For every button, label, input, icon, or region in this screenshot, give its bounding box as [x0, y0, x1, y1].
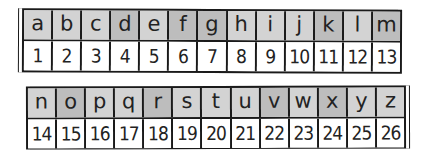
letter-cell: x	[319, 88, 348, 117]
number-cell: 4	[111, 42, 140, 71]
letter-cell: z	[377, 88, 404, 117]
letter-cell: y	[348, 88, 377, 117]
number-cell: 11	[315, 42, 344, 71]
number-cell: 5	[140, 42, 169, 71]
letter-cell: c	[82, 11, 111, 40]
number-cell: 16	[86, 119, 115, 148]
letter-cell: o	[57, 88, 86, 117]
number-cell: 18	[144, 119, 173, 148]
letter-cell: q	[115, 88, 144, 117]
letter-cell: j	[286, 11, 315, 40]
number-cell: 6	[169, 42, 198, 71]
letter-cell: d	[111, 11, 140, 40]
letter-cell: v	[261, 88, 290, 117]
numbers-row: 1 2 3 4 5 6 7 8 9 10 11 12 13	[24, 41, 400, 71]
letters-row: a b c d e f g h i j k l m	[24, 10, 400, 42]
letter-cell: n	[28, 88, 57, 117]
alphabet-strip-a-to-m: a b c d e f g h i j k l m 1 2 3 4 5 6 7 …	[22, 8, 402, 73]
letter-cell: f	[169, 11, 198, 40]
letters-row: n o p q r s t u v w x y z	[28, 88, 404, 120]
letter-cell: i	[257, 11, 286, 40]
number-cell: 19	[173, 119, 202, 148]
number-cell: 1	[24, 41, 53, 70]
number-cell: 3	[82, 42, 111, 71]
number-cell: 12	[344, 42, 373, 71]
letter-cell: g	[198, 11, 227, 40]
number-cell: 7	[198, 42, 227, 71]
letter-cell: h	[228, 11, 257, 40]
number-cell: 10	[286, 42, 315, 71]
number-cell: 8	[227, 42, 256, 71]
letter-cell: w	[290, 88, 319, 117]
letter-cell: m	[373, 12, 400, 41]
letter-cell: t	[202, 88, 231, 117]
number-cell: 2	[53, 41, 82, 70]
letter-cell: p	[86, 88, 115, 117]
number-cell: 25	[348, 119, 377, 148]
letter-cell: l	[344, 11, 373, 40]
number-cell: 23	[290, 119, 319, 148]
numbers-row: 14 15 16 17 18 19 20 21 22 23 24 25 26	[28, 119, 404, 149]
number-cell: 17	[115, 119, 144, 148]
number-cell: 26	[377, 119, 404, 148]
number-cell: 14	[28, 119, 57, 148]
number-cell: 20	[202, 119, 231, 148]
letter-cell: u	[231, 88, 260, 117]
letter-cell: k	[315, 11, 344, 40]
number-cell: 9	[257, 42, 286, 71]
number-cell: 24	[319, 119, 348, 148]
number-cell: 15	[57, 119, 86, 148]
letter-cell: e	[140, 11, 169, 40]
letter-cell: a	[24, 10, 53, 39]
alphabet-strip-n-to-z: n o p q r s t u v w x y z 14 15 16 17 18…	[26, 86, 406, 150]
letter-cell: s	[173, 88, 202, 117]
number-cell: 22	[261, 119, 290, 148]
letter-cell: r	[144, 88, 173, 117]
number-cell: 13	[373, 43, 400, 72]
letter-cell: b	[53, 10, 82, 39]
number-cell: 21	[232, 119, 261, 148]
